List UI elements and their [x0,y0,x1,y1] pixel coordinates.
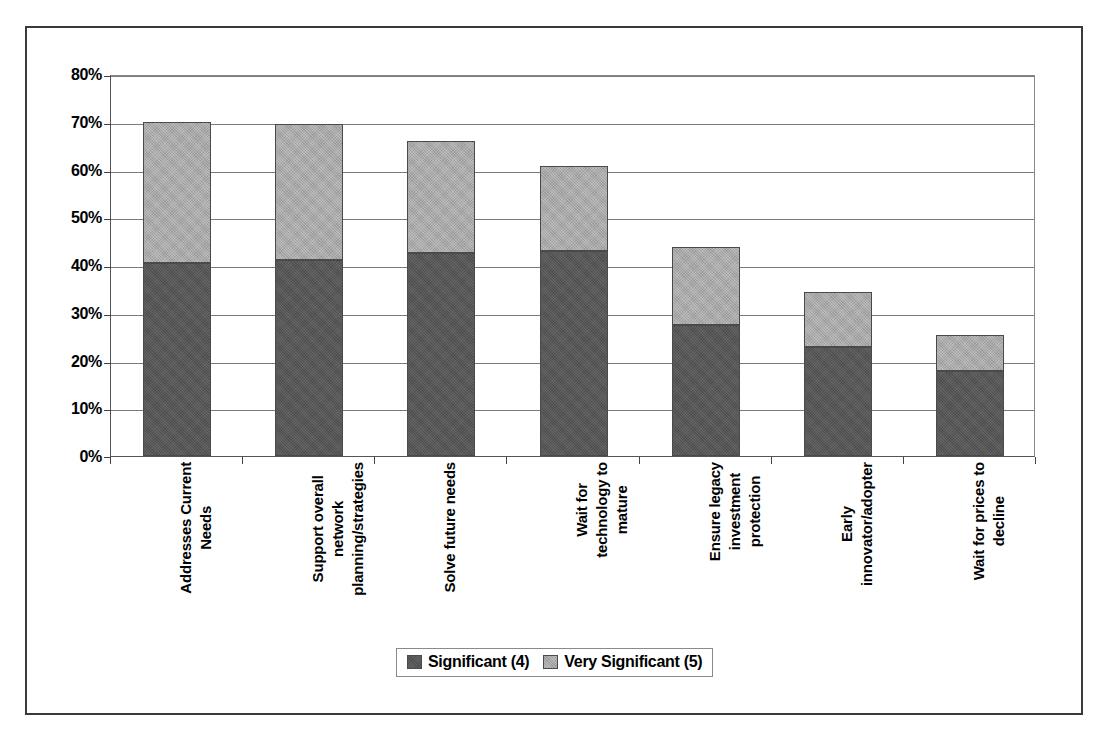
bar-column[interactable] [540,166,608,456]
bar-segment-significant[interactable] [407,253,475,456]
legend-swatch-icon [543,655,558,669]
y-axis-tick-label: 80% [71,66,102,84]
bar-column[interactable] [804,292,872,456]
chart-legend: Significant (4)Very Significant (5) [396,648,713,677]
y-axis-tick-mark [104,363,111,364]
bar-segment-significant[interactable] [936,371,1004,456]
chart-figure: 80%70%60%50%40%30%20%10%0% Addresses Cur… [0,0,1108,737]
x-axis-category-label: Solve future needs [374,462,506,637]
x-axis-category-labels: Addresses Current NeedsSupport overall n… [110,462,1035,637]
bar-column[interactable] [936,335,1004,456]
y-axis-tick-mark [104,172,111,173]
plot-area [110,75,1035,457]
legend-entry[interactable]: Significant (4) [407,653,529,671]
y-axis-tick-mark [104,124,111,125]
x-axis-category-label-text: Support overall network planning/strateg… [308,462,367,596]
x-axis-category-label: Wait for prices to decline [903,462,1035,637]
bar-segment-significant[interactable] [143,263,211,456]
gridline [111,76,1034,77]
bar-segment-significant[interactable] [540,251,608,456]
bar-segment-very-significant[interactable] [275,124,343,261]
bar-column[interactable] [275,124,343,456]
bar-segment-very-significant[interactable] [804,292,872,347]
bar-segment-very-significant[interactable] [407,141,475,253]
x-axis-category-label-text: Ensure legacy investment protection [705,462,764,561]
y-axis-tick-label: 40% [71,257,102,275]
bar-column[interactable] [143,122,211,456]
y-axis-tick-label: 30% [71,305,102,323]
x-axis-category-label: Support overall network planning/strateg… [242,462,374,637]
legend-label: Very Significant (5) [564,653,702,671]
y-axis-tick-mark [104,76,111,77]
y-axis-tick-label: 50% [71,209,102,227]
x-axis-category-label: Addresses Current Needs [110,462,242,637]
x-axis-category-label: Ensure legacy investment protection [639,462,771,637]
x-axis-category-label: Wait for technology to mature [506,462,638,637]
bar-segment-very-significant[interactable] [143,122,211,263]
x-axis-tick-mark [1035,457,1036,464]
legend-swatch-icon [407,655,422,669]
bar-segment-significant[interactable] [275,260,343,456]
x-axis-category-label: Early innovator/adopter [771,462,903,637]
legend-label: Significant (4) [428,653,529,671]
bar-segment-significant[interactable] [672,325,740,456]
x-axis-category-label-text: Addresses Current Needs [176,462,216,594]
bar-segment-very-significant[interactable] [540,166,608,251]
y-axis-tick-mark [104,267,111,268]
bar-segment-very-significant[interactable] [672,247,740,324]
y-axis-tick-label: 70% [71,114,102,132]
bar-column[interactable] [407,141,475,456]
bar-column[interactable] [672,247,740,456]
y-axis-tick-label: 10% [71,400,102,418]
y-axis-tick-mark [104,315,111,316]
gridline [111,124,1034,125]
x-axis-category-label-text: Solve future needs [440,462,460,593]
y-axis-tick-label: 60% [71,162,102,180]
x-axis-category-label-text: Wait for technology to mature [572,462,631,558]
y-axis-tick-label: 0% [79,448,102,466]
y-axis-tick-labels: 80%70%60%50%40%30%20%10%0% [30,75,102,457]
y-axis-tick-mark [104,219,111,220]
x-axis-category-label-text: Early innovator/adopter [837,462,877,586]
y-axis-tick-label: 20% [71,353,102,371]
bar-segment-significant[interactable] [804,347,872,456]
x-axis-category-label-text: Wait for prices to decline [969,462,1009,580]
bar-segment-very-significant[interactable] [936,335,1004,371]
y-axis-tick-mark [104,410,111,411]
legend-entry[interactable]: Very Significant (5) [543,653,702,671]
